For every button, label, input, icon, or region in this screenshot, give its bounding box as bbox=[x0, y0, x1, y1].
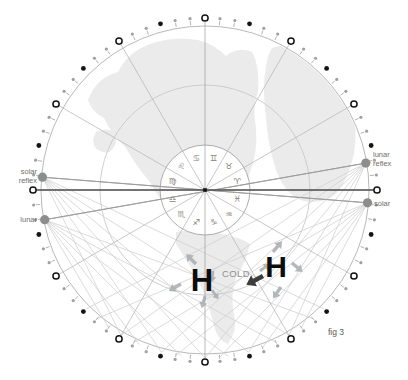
lunar-left-label-line1: lunar bbox=[20, 215, 37, 224]
ring-tick-stem bbox=[46, 132, 50, 133]
ring-gray-dot-marker bbox=[48, 261, 51, 264]
ring-gray-dot-marker bbox=[145, 27, 148, 30]
ring-tick-stem bbox=[361, 132, 365, 133]
ring-gray-dot-marker bbox=[145, 350, 148, 353]
ring-gray-dot-marker bbox=[276, 33, 279, 36]
ring-gray-dot-marker bbox=[32, 203, 35, 206]
lunar-reflex-point bbox=[361, 158, 370, 167]
zodiac-glyph-virgo: ♍ bbox=[169, 176, 177, 186]
lunar-point bbox=[40, 215, 49, 224]
ring-open-circle-marker bbox=[374, 187, 380, 193]
ring-open-circle-marker bbox=[202, 15, 208, 21]
zodiac-glyph-aquarius: ♒ bbox=[225, 209, 233, 219]
cold-airmass-label: COLD bbox=[222, 268, 250, 279]
ring-tick-stem bbox=[66, 285, 69, 287]
ring-gray-dot-marker bbox=[302, 48, 305, 51]
lunar-reflex-label-line2: reflex bbox=[373, 159, 391, 168]
ring-tick-stem bbox=[234, 23, 235, 27]
zodiac-glyph-cancer: ♋ bbox=[193, 153, 201, 163]
ring-gray-dot-marker bbox=[262, 27, 265, 30]
ring-gray-dot-marker bbox=[93, 57, 96, 60]
ring-gray-dot-marker bbox=[314, 57, 317, 60]
solar-reflex-point bbox=[38, 173, 47, 182]
ring-gray-dot-marker bbox=[63, 90, 66, 93]
ring-black-dot-marker bbox=[247, 354, 252, 359]
ring-tick-stem bbox=[51, 118, 55, 120]
zodiac-glyph-leo: ♌ bbox=[177, 161, 185, 171]
map-island-west bbox=[93, 129, 116, 152]
zodiac-glyph-sagittarius: ♐ bbox=[193, 217, 201, 227]
ring-black-dot-marker bbox=[247, 21, 252, 26]
ring-open-circle-marker bbox=[288, 336, 294, 342]
ring-gray-dot-marker bbox=[262, 350, 265, 353]
ring-tick-stem bbox=[341, 93, 344, 95]
ring-open-circle-marker bbox=[288, 38, 294, 44]
wheel-geometry: ♊♉♈♓♒♑♐♏♎♍♌♋ bbox=[30, 15, 380, 365]
ring-open-circle-marker bbox=[351, 101, 357, 107]
ring-gray-dot-marker bbox=[359, 261, 362, 264]
astro-weather-chart: ♊♉♈♓♒♑♐♏♎♍♌♋ solar reflex lunar lunar re… bbox=[0, 0, 408, 380]
ring-gray-dot-marker bbox=[42, 130, 45, 133]
aspect-line-solar bbox=[134, 203, 367, 342]
ring-tick-stem bbox=[96, 60, 99, 63]
ring-tick-stem bbox=[355, 260, 359, 262]
ring-gray-dot-marker bbox=[105, 48, 108, 51]
ring-open-circle-marker bbox=[116, 38, 122, 44]
ring-gray-dot-marker bbox=[63, 287, 66, 290]
ring-black-dot-marker bbox=[81, 309, 86, 314]
zodiac-glyph-aries: ♈ bbox=[234, 176, 242, 186]
ring-gray-dot-marker bbox=[233, 358, 236, 361]
ring-tick-stem bbox=[355, 118, 359, 120]
ring-gray-dot-marker bbox=[42, 247, 45, 250]
high-pressure-symbol-left: H bbox=[191, 263, 213, 299]
solar-reflex-label: solar reflex bbox=[19, 167, 37, 185]
ring-gray-dot-marker bbox=[344, 287, 347, 290]
ring-gray-dot-marker bbox=[335, 78, 338, 81]
ring-gray-dot-marker bbox=[93, 320, 96, 323]
ring-black-dot-marker bbox=[158, 21, 163, 26]
ring-black-dot-marker bbox=[81, 66, 86, 71]
ring-gray-dot-marker bbox=[314, 320, 317, 323]
ring-tick-stem bbox=[332, 81, 335, 84]
aspect-line-solar bbox=[301, 203, 367, 328]
ring-tick-stem bbox=[133, 36, 135, 40]
ring-gray-dot-marker bbox=[174, 358, 177, 361]
ring-tick-stem bbox=[311, 60, 314, 63]
ring-tick-stem bbox=[51, 260, 55, 262]
solar-reflex-label-line2: reflex bbox=[19, 176, 37, 185]
ring-open-circle-marker bbox=[116, 336, 122, 342]
ring-tick-stem bbox=[147, 31, 148, 35]
ring-black-dot-marker bbox=[36, 143, 41, 148]
solar-reflex-label-line1: solar bbox=[19, 167, 37, 176]
ring-gray-dot-marker bbox=[302, 329, 305, 332]
ring-gray-dot-marker bbox=[131, 33, 134, 36]
ring-black-dot-marker bbox=[36, 232, 41, 237]
ring-gray-dot-marker bbox=[188, 360, 191, 363]
lunar-reflex-label-line1: lunar bbox=[373, 150, 391, 159]
aspect-line-lunar bbox=[45, 220, 140, 345]
solar-point bbox=[363, 198, 372, 207]
ring-gray-dot-marker bbox=[188, 17, 191, 20]
ring-gray-dot-marker bbox=[359, 116, 362, 119]
ring-open-circle-marker bbox=[30, 187, 36, 193]
aspect-line-solar-reflex bbox=[43, 177, 162, 352]
ring-black-dot-marker bbox=[369, 232, 374, 237]
chart-center-marker bbox=[203, 188, 207, 192]
ring-open-circle-marker bbox=[53, 273, 59, 279]
ring-open-circle-marker bbox=[351, 273, 357, 279]
ring-black-dot-marker bbox=[158, 354, 163, 359]
ring-gray-dot-marker bbox=[72, 299, 75, 302]
ring-gray-dot-marker bbox=[365, 130, 368, 133]
high-pressure-symbol-right: H bbox=[265, 250, 287, 284]
ring-tick-stem bbox=[262, 31, 263, 35]
ring-gray-dot-marker bbox=[218, 17, 221, 20]
ring-gray-dot-marker bbox=[131, 344, 134, 347]
ring-tick-stem bbox=[341, 285, 344, 287]
ring-gray-dot-marker bbox=[174, 19, 177, 22]
wheel-diagram: ♊♉♈♓♒♑♐♏♎♍♌♋ bbox=[0, 0, 408, 380]
lunar-left-label: lunar bbox=[20, 215, 37, 224]
ring-tick-stem bbox=[75, 81, 78, 84]
ring-tick-stem bbox=[300, 51, 302, 54]
ring-tick-stem bbox=[176, 353, 177, 357]
ring-tick-stem bbox=[147, 346, 148, 350]
